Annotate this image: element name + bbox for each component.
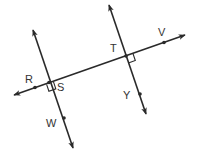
label-s: S [57,81,64,93]
point-y [138,92,142,96]
geometry-diagram: R S T V Y W [0,0,198,161]
point-r [33,86,37,90]
label-r: R [25,73,33,85]
line-sw [33,30,73,148]
line-rv [14,35,185,95]
label-v: V [158,26,166,38]
point-w [62,116,66,120]
label-w: W [46,117,57,129]
point-s [47,81,51,85]
point-t [124,54,128,58]
label-y: Y [123,89,131,101]
point-v [162,41,166,45]
label-t: T [110,42,117,54]
